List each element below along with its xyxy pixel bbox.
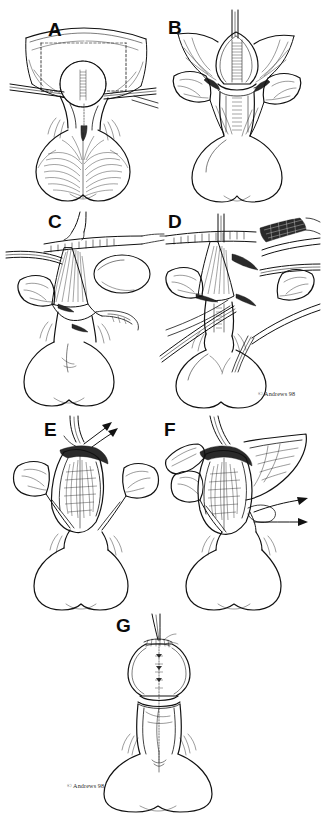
displacement-arrow-2 <box>254 518 308 526</box>
traction-arrow-2 <box>88 428 118 450</box>
panel-f: F <box>160 412 320 610</box>
panel-b: B <box>162 8 314 204</box>
panel-g: G <box>60 612 260 812</box>
panel-a-drawing <box>8 8 158 204</box>
panel-e-drawing <box>8 412 164 610</box>
traction-arrow-1 <box>84 422 112 444</box>
panel-e-label: E <box>44 420 57 439</box>
panel-b-drawing <box>162 8 314 204</box>
panel-d-label: D <box>168 212 182 231</box>
panel-d-drawing <box>160 208 320 408</box>
credit-panel-g: © Andrews 98 <box>67 782 104 789</box>
credit-panel-d: © Andrews 98 <box>258 390 295 397</box>
panel-a: A <box>8 8 158 204</box>
displacement-arrow-1 <box>254 497 308 512</box>
panel-f-drawing <box>160 412 320 610</box>
panel-f-label: F <box>164 420 176 439</box>
panel-c-label: C <box>48 212 62 231</box>
panel-d: D <box>160 208 320 408</box>
panel-a-label: A <box>48 20 62 39</box>
panel-b-label: B <box>168 18 182 37</box>
panel-g-label: G <box>116 616 131 635</box>
panel-c: C <box>6 208 164 408</box>
panel-c-drawing <box>6 208 164 408</box>
illustration-plate: A <box>0 0 322 814</box>
panel-e: E <box>8 412 164 610</box>
